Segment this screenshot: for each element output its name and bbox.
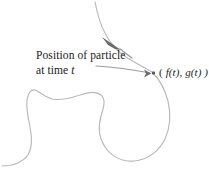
caption-position-of-particle: Position of particle at time t [36, 48, 126, 77]
caption-line-2-prefix: at time [36, 64, 71, 76]
point-label-open-paren: ( [159, 66, 166, 78]
parametric-curve-figure: Position of particle at time t ( f(t), g… [0, 0, 209, 175]
caption-time-variable: t [71, 64, 74, 76]
point-coordinate-label: ( f(t), g(t) ) [159, 66, 208, 78]
caption-line-2: at time t [36, 63, 126, 78]
caption-line-1: Position of particle [36, 48, 126, 63]
point-label-g-args: (t) ) [191, 66, 208, 78]
parametric-curve [2, 2, 170, 166]
point-marker [152, 71, 155, 74]
curve-canvas [0, 0, 209, 175]
point-label-f-args: (t), [169, 66, 185, 78]
